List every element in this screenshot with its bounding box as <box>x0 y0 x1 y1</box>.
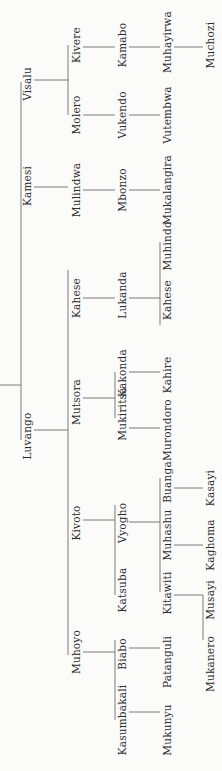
tree-node-luvango: Luvango <box>22 412 33 459</box>
tree-node-vukendo: Vukendo <box>117 91 128 138</box>
tree-node-molero: Molero <box>71 95 82 134</box>
tree-node-buanga: Buanga <box>162 461 173 503</box>
tree-node-mulindwa: Mulindwa <box>71 163 82 218</box>
tree-node-mukalangira: Mukalangira <box>162 155 173 225</box>
tree-node-vyogho: Vyogho <box>117 503 128 543</box>
tree-node-mbonzo: Mbonzo <box>117 168 128 212</box>
tree-node-mutsora: Mutsora <box>71 379 82 425</box>
tree-node-muhoyo: Muhoyo <box>71 630 82 674</box>
tree-connector-lines <box>0 0 222 771</box>
tree-node-visalu: Visalu <box>22 67 33 101</box>
tree-node-muhayirwa: Muhayirwa <box>162 11 173 73</box>
tree-node-kasayi: Kasayi <box>205 470 216 506</box>
tree-node-kamesi: Kamesi <box>22 166 33 206</box>
tree-node-mukanero: Mukanero <box>205 636 216 692</box>
tree-node-katsuba: Katsuba <box>117 568 128 613</box>
tree-node-kaghoma: Kaghoma <box>205 519 216 571</box>
tree-node-kahese1: Kahese <box>71 278 82 318</box>
tree-node-kamabo: Kamabo <box>117 23 128 68</box>
tree-node-biabo: Biabo <box>117 638 128 669</box>
tree-node-kahire: Kahire <box>162 357 173 394</box>
tree-node-kivere: Kivere <box>71 27 82 63</box>
tree-node-musayi: Musayi <box>205 580 216 620</box>
tree-node-muhindo: Muhindo <box>162 222 173 271</box>
tree-node-kitawiti: Kitawiti <box>162 571 173 614</box>
tree-node-muchozi: Muchozi <box>205 22 216 69</box>
tree-node-kasumbakali: Kasumbakali <box>117 685 128 756</box>
tree-node-vutembwa: Vutembwa <box>162 86 173 144</box>
tree-node-mukunyu: Mukunyu <box>162 704 173 756</box>
tree-node-muhashu: Muhashu <box>162 510 173 561</box>
tree-node-lukanda: Lukanda <box>117 271 128 319</box>
tree-node-murondoro: Murondoro <box>162 399 173 461</box>
tree-node-mukiritsa: Mukiritsa <box>117 387 128 440</box>
tree-node-kivoto: Kivoto <box>71 505 82 540</box>
genealogy-tree: VisaluKamesiLuvangoKivereMoleroMulindwaK… <box>0 0 222 771</box>
tree-node-patanguli: Patanguli <box>162 636 173 688</box>
tree-node-kahese2: Kahese <box>162 280 173 320</box>
